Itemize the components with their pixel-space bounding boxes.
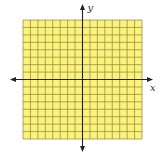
y-axis-down-arrow-icon bbox=[80, 146, 85, 152]
x-axis-label: x bbox=[150, 82, 156, 93]
grid-diagram: x y bbox=[0, 0, 160, 158]
x-axis-left-arrow-icon bbox=[10, 77, 16, 82]
y-axis-label: y bbox=[87, 2, 94, 13]
y-axis-up-arrow-icon bbox=[80, 4, 85, 10]
coordinate-plane: x y bbox=[0, 0, 160, 158]
